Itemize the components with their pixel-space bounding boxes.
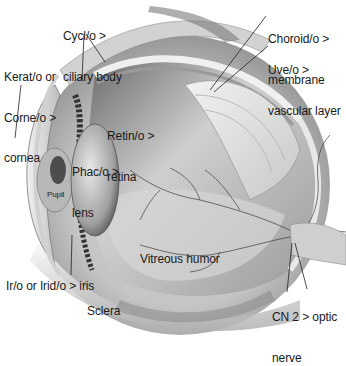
label-lens: Phac/o > lens (72, 139, 119, 247)
label-iris: Ir/o or Irid/o > iris (6, 253, 94, 321)
label-optic-nerve: CN 2 > optic nerve (272, 284, 337, 366)
label-pupil: Pupil (47, 172, 64, 217)
label-cornea: Kerat/o or Corne/o > cornea (4, 44, 56, 193)
label-sclera: Sclera (87, 278, 120, 346)
label-uvea: Uve/o > vascular layer (268, 37, 341, 145)
label-ciliary-body: Cycl/o > ciliary body (63, 3, 122, 111)
label-vitreous-humor: Vitreous humor (140, 226, 220, 294)
